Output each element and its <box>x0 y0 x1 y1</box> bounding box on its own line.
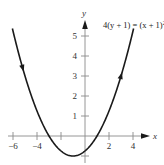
y-tick-label: 5 <box>73 31 78 41</box>
equation-main: 4(y + 1) = (x + 1) <box>103 20 163 30</box>
x-tick-label: 2 <box>107 141 112 151</box>
x-axis-arrow-icon <box>141 133 150 139</box>
x-tick-label: −6 <box>8 141 18 151</box>
x-tick-label: 4 <box>131 141 136 151</box>
labels: x y 4(y + 1) = (x + 1)2 <box>81 8 164 141</box>
parabola-plot: −6−42412345 x y 4(y + 1) = (x + 1)2 <box>0 0 164 165</box>
y-axis-arrow-icon <box>82 20 88 29</box>
y-tick-label: 4 <box>73 51 78 61</box>
ticks: −6−42412345 <box>8 31 136 156</box>
equation-label: 4(y + 1) = (x + 1)2 <box>103 20 164 31</box>
x-tick-label: −4 <box>32 141 42 151</box>
arrow-down-icon <box>19 64 24 71</box>
y-tick-label: 1 <box>73 111 78 121</box>
y-tick-label: 3 <box>73 71 78 81</box>
arrow-up-icon <box>118 72 123 79</box>
equation-exponent: 2 <box>163 20 164 26</box>
y-tick-label: 2 <box>73 91 78 101</box>
x-axis-label: x <box>152 131 157 141</box>
y-axis-label: y <box>81 8 86 18</box>
plot-canvas: −6−42412345 x y 4(y + 1) = (x + 1)2 <box>0 0 164 165</box>
